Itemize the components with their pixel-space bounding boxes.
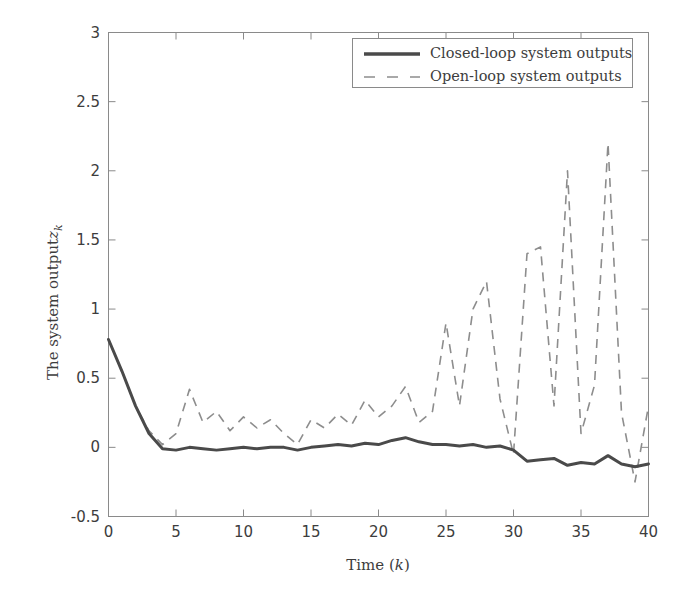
legend-item-closed-loop: Closed-loop system outputs [353, 40, 632, 65]
y-tick-label: -0.5 [40, 508, 100, 526]
y-tick-label: 2.5 [40, 93, 100, 111]
x-axis-label-close: ) [404, 556, 410, 574]
series-line-closed-loop [109, 339, 649, 466]
y-axis-label: The system outputzk [44, 224, 65, 380]
series-line-open-loop [109, 143, 649, 482]
chart-legend: Closed-loop system outputs Open-loop sys… [352, 38, 633, 88]
x-axis-label-variable: k [395, 556, 404, 574]
legend-item-open-loop: Open-loop system outputs [353, 63, 632, 88]
y-tick-label: 3 [40, 24, 100, 42]
plot-canvas [0, 0, 691, 596]
legend-swatch-solid-line [363, 46, 421, 60]
y-tick-label: 0 [40, 438, 100, 456]
y-axis-label-text: The system output [44, 239, 62, 380]
legend-label-open-loop: Open-loop system outputs [430, 68, 622, 84]
legend-label-closed-loop: Closed-loop system outputs [430, 45, 632, 61]
x-tick-label: 15 [301, 523, 320, 541]
y-axis-label-subscript: k [52, 224, 65, 231]
x-tick-label: 5 [171, 523, 181, 541]
x-tick-label: 20 [369, 523, 388, 541]
x-tick-label: 35 [571, 523, 590, 541]
x-axis-label-text: Time ( [346, 556, 395, 574]
y-tick-label: 2 [40, 162, 100, 180]
x-tick-label: 30 [504, 523, 523, 541]
y-axis-label-variable: z [44, 231, 62, 239]
legend-swatch-dashed-line [363, 69, 421, 83]
x-tick-label: 0 [104, 523, 114, 541]
x-tick-label: 10 [234, 523, 253, 541]
x-axis-label: Time (k) [346, 556, 409, 574]
chart-figure: -0.500.511.522.53 0510152025303540 The s… [0, 0, 691, 596]
x-tick-label: 25 [436, 523, 455, 541]
x-tick-label: 40 [639, 523, 658, 541]
